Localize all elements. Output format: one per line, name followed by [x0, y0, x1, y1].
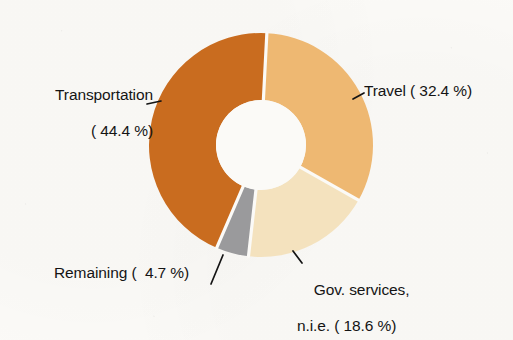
- leader-line-gov-services: [293, 251, 302, 263]
- leader-line-remaining: [211, 255, 223, 284]
- chart-page: Transportation ( 44.4 %) Travel ( 32.4 %…: [0, 0, 513, 340]
- slice-label-transportation-line1: Transportation: [55, 86, 153, 103]
- donut-hole: [216, 100, 306, 190]
- slice-label-travel: Travel ( 32.4 %): [364, 82, 472, 100]
- slice-label-transportation-line2: ( 44.4 %): [23, 122, 153, 140]
- slice-label-gov-services-line1: Gov. services,: [314, 281, 410, 298]
- slice-label-gov-services-line2: n.i.e. ( 18.6 %): [297, 317, 409, 335]
- slice-label-transportation: Transportation ( 44.4 %): [23, 68, 153, 176]
- slice-label-remaining: Remaining ( 4.7 %): [54, 264, 189, 282]
- slice-label-gov-services: Gov. services, n.i.e. ( 18.6 %): [297, 263, 409, 340]
